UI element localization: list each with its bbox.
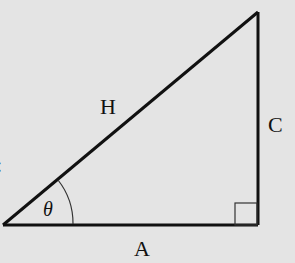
- triangle-diagram: : H C A θ: [0, 0, 295, 263]
- label-adjacent: A: [134, 236, 150, 261]
- label-hypotenuse: H: [100, 94, 116, 119]
- right-angle-marker: [235, 203, 257, 225]
- edge-fragment-text: :: [0, 152, 2, 177]
- triangle: [3, 12, 258, 225]
- angle-arc: [58, 180, 73, 224]
- label-opposite: C: [268, 112, 283, 137]
- label-angle-theta: θ: [43, 198, 53, 220]
- side-hypotenuse: [3, 12, 258, 225]
